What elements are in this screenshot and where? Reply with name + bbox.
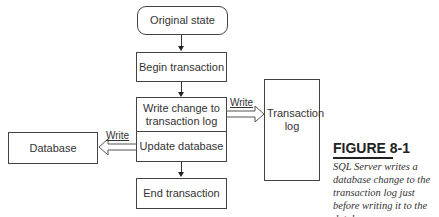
node-write-change-to-log: Write change to transaction log — [136, 97, 227, 132]
node-label: Original state — [150, 14, 215, 27]
node-label: Begin transaction — [139, 61, 224, 74]
node-label: Transaction log — [267, 107, 317, 133]
node-begin-transaction: Begin transaction — [136, 52, 227, 82]
figure-divider — [333, 157, 393, 159]
node-label: End transaction — [143, 187, 219, 200]
node-label: Database — [29, 142, 76, 155]
node-original-state: Original state — [137, 6, 228, 35]
arrow-down-icon — [178, 46, 184, 51]
node-label: Update database — [140, 140, 224, 153]
figure-title: FIGURE 8-1 — [333, 140, 410, 156]
arrow-down-icon — [178, 172, 184, 177]
node-end-transaction: End transaction — [136, 178, 227, 209]
edge-label-write-db: Write — [106, 130, 129, 141]
node-transaction-log: Transaction log — [264, 79, 320, 181]
edge-label-write-log: Write — [230, 97, 253, 108]
node-label: Write change to transaction log — [142, 102, 222, 128]
node-database: Database — [8, 132, 98, 164]
figure-caption: SQL Server writes a database change to t… — [333, 160, 437, 217]
node-update-database: Update database — [136, 131, 227, 162]
